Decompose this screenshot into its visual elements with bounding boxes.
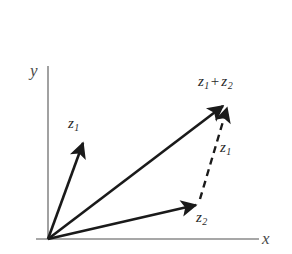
z2-origin-subscript: 2 bbox=[202, 216, 207, 227]
z2-origin-base: z bbox=[196, 209, 202, 225]
sum-subscript-2: 2 bbox=[228, 80, 233, 91]
z1-origin-base: z bbox=[68, 115, 74, 131]
sum-base-2: z bbox=[221, 73, 227, 89]
vector-label-z1-translated: z1 bbox=[220, 140, 231, 155]
vector-label-z1-origin: z1 bbox=[68, 116, 79, 131]
z1-origin-subscript: 1 bbox=[74, 122, 79, 133]
y-axis-label: y bbox=[30, 62, 38, 79]
vector-diagram-canvas bbox=[0, 0, 292, 254]
z1-translated-subscript: 1 bbox=[226, 146, 231, 157]
vector-label-z2-origin: z2 bbox=[196, 210, 207, 225]
plus-operator: + bbox=[209, 73, 221, 89]
z1-translated-base: z bbox=[220, 139, 226, 155]
x-axis-label: x bbox=[262, 230, 270, 247]
vector-label-z1-plus-z2: z1+z2 bbox=[198, 74, 232, 89]
vector-addition-figure: y x z1 z1+z2 z1 z2 bbox=[0, 0, 292, 254]
sum-base-1: z bbox=[198, 73, 204, 89]
sum-subscript-1: 1 bbox=[204, 80, 209, 91]
